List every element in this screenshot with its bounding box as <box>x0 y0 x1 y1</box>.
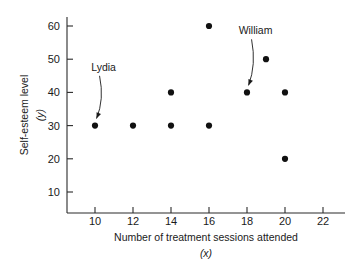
data-point <box>130 123 136 129</box>
annotation-arrowhead-william <box>248 79 252 85</box>
annotation-arrow-william <box>249 39 254 85</box>
annotation-arrowhead-lydia <box>97 112 102 118</box>
data-point <box>206 123 212 129</box>
data-point <box>244 89 250 95</box>
x-tick-label-10: 10 <box>89 215 101 227</box>
annotation-arrow-lydia <box>97 76 102 119</box>
y-tick-label-50: 50 <box>48 53 60 65</box>
annotation-label-lydia: Lydia <box>91 61 116 73</box>
y-axis-title: Self-esteem level <box>18 75 30 156</box>
data-point <box>168 123 174 129</box>
x-tick-label-22: 22 <box>317 215 329 227</box>
y-tick-label-40: 40 <box>48 86 60 98</box>
x-axis-ticks <box>95 207 323 213</box>
y-axis-variable-label: (y) <box>34 109 46 121</box>
x-axis-title: Number of treatment sessions attended <box>114 231 298 243</box>
y-tick-label-20: 20 <box>48 153 60 165</box>
point-annotations: LydiaWilliam <box>91 24 273 118</box>
y-axis-ticks <box>67 26 73 192</box>
data-point-series <box>92 23 288 162</box>
data-point <box>282 156 288 162</box>
x-axis-variable-label: (x) <box>200 247 212 259</box>
x-tick-label-16: 16 <box>203 215 215 227</box>
data-point <box>168 89 174 95</box>
x-tick-label-18: 18 <box>241 215 253 227</box>
data-point <box>282 89 288 95</box>
x-tick-label-12: 12 <box>127 215 139 227</box>
x-tick-label-20: 20 <box>279 215 291 227</box>
plot-canvas: 10121416182022 102030405060 LydiaWilliam… <box>0 0 362 266</box>
data-point <box>263 56 269 62</box>
y-axis-tick-labels: 102030405060 <box>48 20 60 198</box>
y-tick-label-30: 30 <box>48 120 60 132</box>
y-tick-label-60: 60 <box>48 20 60 32</box>
data-point <box>92 123 98 129</box>
x-axis-tick-labels: 10121416182022 <box>89 215 329 227</box>
annotation-label-william: William <box>239 24 273 36</box>
x-tick-label-14: 14 <box>165 215 177 227</box>
data-point <box>206 23 212 29</box>
scatter-plot-figure: 10121416182022 102030405060 LydiaWilliam… <box>0 0 362 266</box>
y-tick-label-10: 10 <box>48 186 60 198</box>
